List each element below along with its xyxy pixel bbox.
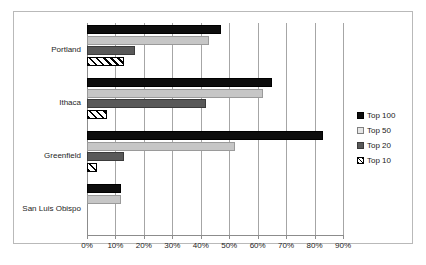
category-label: San Luis Obispo (22, 204, 81, 214)
bar (87, 36, 209, 45)
tick-70% (286, 235, 287, 239)
x-tick-label: 50% (214, 241, 244, 251)
bar-group (87, 131, 343, 172)
chart-frame: PortlandIthacaGreenfieldSan Luis Obispo … (13, 11, 413, 244)
bar (87, 57, 124, 66)
bar (87, 46, 135, 55)
category-label: Ithaca (59, 98, 81, 108)
legend-swatch-icon (357, 127, 364, 134)
tick-90% (343, 235, 344, 239)
tick-50% (229, 235, 230, 239)
legend-item[interactable]: Top 20 (357, 138, 417, 153)
plot-area (87, 23, 343, 235)
bar (87, 131, 323, 140)
x-tick-label: 30% (157, 241, 187, 251)
tick-80% (315, 235, 316, 239)
x-axis-line (87, 235, 343, 236)
x-tick-label: 10% (100, 241, 130, 251)
gridline-90% (343, 23, 344, 235)
tick-30% (172, 235, 173, 239)
bar (87, 195, 121, 204)
bar (87, 152, 124, 161)
legend-swatch-icon (357, 142, 364, 149)
x-tick-label: 20% (129, 241, 159, 251)
bar (87, 78, 272, 87)
x-tick-label: 80% (300, 241, 330, 251)
tick-0% (87, 235, 88, 239)
bar (87, 110, 107, 119)
legend-label: Top 50 (367, 126, 391, 136)
legend-item[interactable]: Top 10 (357, 153, 417, 168)
x-tick-label: 90% (328, 241, 358, 251)
bar (87, 25, 221, 34)
category-label: Portland (51, 45, 81, 55)
bar-group (87, 25, 343, 66)
bar (87, 142, 235, 151)
legend-swatch-icon (357, 112, 364, 119)
chart-legend: Top 100Top 50Top 20Top 10 (357, 108, 417, 168)
bar (87, 184, 121, 193)
bar (87, 163, 97, 172)
legend-swatch-icon (357, 157, 364, 164)
x-tick-label: 40% (186, 241, 216, 251)
x-tick-label: 70% (271, 241, 301, 251)
category-label: Greenfield (44, 151, 81, 161)
legend-label: Top 100 (367, 111, 395, 121)
bar-group (87, 78, 343, 119)
bar-group (87, 184, 343, 225)
tick-10% (115, 235, 116, 239)
x-tick-label: 60% (243, 241, 273, 251)
bar (87, 89, 263, 98)
bar (87, 99, 206, 108)
legend-label: Top 10 (367, 156, 391, 166)
legend-label: Top 20 (367, 141, 391, 151)
tick-60% (258, 235, 259, 239)
x-tick-label: 0% (72, 241, 102, 251)
legend-item[interactable]: Top 50 (357, 123, 417, 138)
tick-20% (144, 235, 145, 239)
legend-item[interactable]: Top 100 (357, 108, 417, 123)
tick-40% (201, 235, 202, 239)
